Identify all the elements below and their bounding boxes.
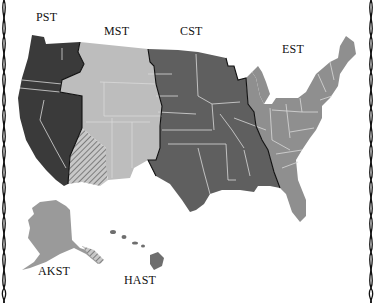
label-pst: PST <box>36 10 57 25</box>
label-est: EST <box>282 42 304 57</box>
zone-akst-panhandle <box>82 246 104 264</box>
zone-hast[interactable] <box>110 230 164 270</box>
map-canvas <box>0 0 375 303</box>
label-akst: AKST <box>38 264 70 279</box>
label-mst: MST <box>104 24 129 39</box>
label-cst: CST <box>180 24 203 39</box>
zone-akst[interactable] <box>22 200 102 270</box>
time-zone-map: PST MST CST EST AKST HAST <box>0 0 375 303</box>
label-hast: HAST <box>124 273 156 288</box>
